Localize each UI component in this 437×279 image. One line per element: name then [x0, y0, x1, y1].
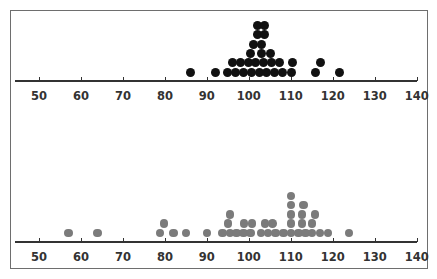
x-tick-label: 90 — [192, 250, 222, 264]
data-point — [156, 229, 165, 238]
dot-plot-bottom: 5060708090100110120130140 — [0, 0, 437, 279]
x-tick — [333, 238, 334, 242]
data-point — [203, 229, 212, 238]
data-point — [287, 210, 296, 219]
data-point — [345, 229, 354, 238]
x-tick — [165, 238, 166, 242]
data-point — [287, 201, 296, 210]
data-point — [311, 210, 320, 219]
x-tick — [39, 238, 40, 242]
data-point — [298, 210, 307, 219]
data-point — [268, 219, 277, 228]
x-axis-bottom — [15, 241, 417, 243]
data-point — [287, 219, 296, 228]
data-point — [316, 229, 325, 238]
data-point — [224, 219, 233, 228]
data-point — [93, 229, 102, 238]
data-point — [246, 229, 255, 238]
x-tick-label: 110 — [276, 250, 306, 264]
x-tick-label: 50 — [24, 250, 54, 264]
x-tick-label: 60 — [66, 250, 96, 264]
data-point — [64, 229, 73, 238]
data-point — [160, 219, 169, 228]
x-tick — [291, 238, 292, 242]
data-point — [299, 201, 308, 210]
data-point — [287, 192, 296, 201]
x-tick-label: 120 — [318, 250, 348, 264]
x-tick — [417, 238, 418, 242]
x-tick — [207, 238, 208, 242]
x-tick-label: 70 — [108, 250, 138, 264]
x-tick-label: 140 — [402, 250, 432, 264]
x-tick — [123, 238, 124, 242]
data-point — [182, 229, 191, 238]
data-point — [308, 219, 317, 228]
x-tick-label: 130 — [360, 250, 390, 264]
data-point — [226, 210, 235, 219]
x-tick — [375, 238, 376, 242]
data-point — [324, 229, 333, 238]
x-tick — [81, 238, 82, 242]
data-point — [248, 219, 257, 228]
x-tick-label: 100 — [234, 250, 264, 264]
x-tick-label: 80 — [150, 250, 180, 264]
data-point — [298, 219, 307, 228]
x-tick — [249, 238, 250, 242]
data-point — [169, 229, 178, 238]
